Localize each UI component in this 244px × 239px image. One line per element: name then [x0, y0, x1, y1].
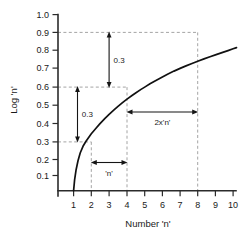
chart-figure: 1.0 0.9 0.8 0.7 0.6 0.5 0.4 0.3 0.2 0.1 … [0, 0, 244, 239]
y-tick-label-0-9: 0.9 [36, 28, 49, 38]
y-tick-label-0-2: 0.2 [36, 155, 49, 165]
x-axis-ticks [74, 191, 234, 197]
y-tick-label-0-6: 0.6 [36, 82, 49, 92]
x-tick-label-2: 2 [89, 200, 94, 210]
x-tick-label-5: 5 [142, 200, 147, 210]
x-axis-title: Number 'n' [125, 218, 171, 229]
y-axis-title: Log 'n' [8, 86, 19, 114]
y-tick-label-0-7: 0.7 [36, 63, 49, 73]
annotation-span-2n: 2x'n' [127, 110, 199, 127]
y-tick-label-1-0: 1.0 [36, 10, 49, 20]
span-2n-label: 2x'n' [154, 118, 170, 127]
log-curve-chart: 1.0 0.9 0.8 0.7 0.6 0.5 0.4 0.3 0.2 0.1 … [0, 0, 244, 239]
x-tick-label-7: 7 [178, 200, 183, 210]
y-axis-ticks [53, 15, 59, 176]
x-tick-label-1: 1 [71, 200, 76, 210]
x-tick-label-10: 10 [228, 200, 238, 210]
delta-log-lower-label: 0.3 [82, 110, 94, 119]
x-axis-tick-labels: 1 2 3 4 5 6 7 8 9 10 [71, 200, 238, 210]
y-axis-tick-labels: 1.0 0.9 0.8 0.7 0.6 0.5 0.4 0.3 0.2 0.1 [36, 10, 49, 181]
y-tick-label-0-4: 0.4 [36, 119, 49, 129]
x-tick-label-6: 6 [160, 200, 165, 210]
y-tick-label-0-8: 0.8 [36, 45, 49, 55]
x-tick-label-4: 4 [124, 200, 129, 210]
y-tick-label-0-5: 0.5 [36, 100, 49, 110]
x-tick-label-3: 3 [107, 200, 112, 210]
y-tick-label-0-1: 0.1 [36, 171, 49, 181]
x-tick-label-9: 9 [213, 200, 218, 210]
delta-log-upper-label: 0.3 [114, 56, 126, 65]
x-tick-label-8: 8 [195, 200, 200, 210]
axes [58, 15, 236, 196]
span-n-label: 'n' [105, 169, 113, 178]
y-tick-label-0-3: 0.3 [36, 137, 49, 147]
annotation-span-n: 'n' [91, 160, 128, 178]
annotation-delta-log-upper: 0.3 [107, 32, 125, 88]
